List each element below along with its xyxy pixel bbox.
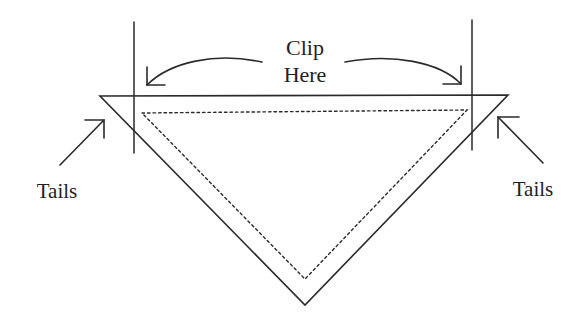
tails-label-left: Tails [37,179,78,203]
arrow-to-right-tail-icon [498,117,543,163]
outer-triangle [100,95,508,305]
diagram-canvas: Clip Here Tails Tails [0,0,585,323]
arrow-to-left-tail-icon [60,120,104,165]
seam-line-dotted-triangle [142,110,467,279]
curved-arrow-right-icon [345,59,461,84]
clip-label-line2: Here [284,62,327,87]
tails-label-right: Tails [513,177,554,201]
curved-arrow-left-icon [147,58,262,85]
clip-label-line1: Clip [286,35,324,60]
